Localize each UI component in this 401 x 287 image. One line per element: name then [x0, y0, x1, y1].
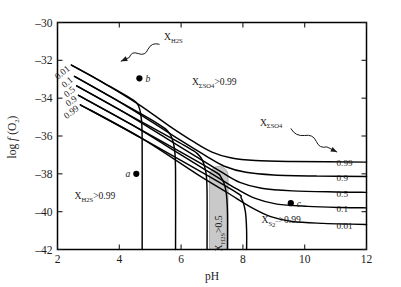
point-marker-a — [133, 171, 139, 177]
figure-container: 24681012 –30–32–34–36–38–40–42 0.010.10.… — [0, 0, 401, 287]
point-marker-c — [288, 200, 294, 206]
x-tick-label: 2 — [55, 253, 61, 265]
x-tick-label: 4 — [116, 253, 122, 265]
x-tick-label: 6 — [178, 253, 184, 265]
right-curve-label: 0.1 — [337, 204, 349, 214]
point-label-b: b — [145, 73, 150, 84]
x-h2s-arrow-sub: H2S — [171, 37, 183, 44]
chart-background — [0, 0, 401, 287]
y-tick-label: –34 — [34, 92, 53, 104]
x-sso4-arrow-sub: ΣSO4 — [267, 122, 283, 129]
point-label-a: a — [125, 168, 130, 179]
y-tick-label: –30 — [34, 17, 53, 29]
y-axis-title-post: ) — [6, 115, 19, 119]
right-curve-label: 0.5 — [337, 189, 349, 199]
log-fo2-vs-ph-chart: 24681012 –30–32–34–36–38–40–42 0.010.10.… — [0, 0, 401, 287]
x-axis-title: pH — [205, 270, 219, 283]
x-h2s-region-post: >0.99 — [93, 190, 115, 201]
x-tick-label: 12 — [361, 253, 373, 265]
x-tick-label: 8 — [240, 253, 246, 265]
band-label-post: >0.5 — [213, 215, 224, 233]
right-curve-label: 0.99 — [337, 158, 353, 168]
x-h2s-region-label: XH2S>0.99 — [74, 190, 115, 203]
y-tick-label: –42 — [34, 244, 53, 256]
x-sso4-region-label: XΣSO4>0.99 — [192, 76, 237, 89]
right-curve-label: 0.9 — [337, 173, 349, 183]
x-s2-region-post: >0.99 — [279, 214, 301, 225]
y-axis-title-mid: (O — [6, 123, 19, 138]
band-label-sub: H2S — [219, 233, 226, 245]
point-marker-b — [136, 75, 142, 81]
y-axis-title-pre: log — [6, 141, 19, 159]
shaded-band-label: XH2S>0.5 — [213, 215, 226, 251]
x-h2s-region-sub: H2S — [81, 196, 93, 203]
x-sso4-region-post: >0.99 — [214, 76, 236, 87]
y-tick-label: –36 — [34, 130, 53, 142]
y-tick-label: –32 — [34, 54, 53, 66]
y-tick-label: –38 — [34, 168, 53, 180]
y-tick-label: –40 — [34, 206, 53, 218]
x-sso4-region-sub: ΣSO4 — [199, 82, 215, 89]
right-curve-label: 0.01 — [337, 221, 353, 231]
x-tick-label: 10 — [299, 253, 311, 265]
point-label-c: c — [297, 198, 302, 209]
x-s2-region-x: X — [261, 214, 268, 225]
